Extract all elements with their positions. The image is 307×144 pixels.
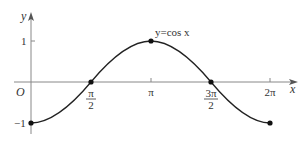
cosine-graph: y x O 1 −1 π 2 π 3π 2 2π y=cos x (0, 0, 307, 144)
x-tick-label-two-pi: 2π (264, 86, 276, 98)
point-two-pi (267, 120, 272, 125)
x-tick-label-three-half-pi-den: 2 (208, 99, 214, 111)
y-tick-label-neg1: −1 (14, 117, 26, 129)
y-tick-label-1: 1 (21, 35, 27, 47)
point-pi (148, 38, 153, 43)
point-0 (28, 120, 33, 125)
y-axis-label: y (20, 9, 27, 23)
point-half-pi (88, 79, 93, 84)
origin-label: O (16, 85, 25, 99)
x-axis-label: x (289, 82, 296, 96)
curve-label: y=cos x (155, 26, 190, 38)
x-tick-label-pi: π (148, 86, 154, 98)
x-tick-label-half-pi-num: π (88, 87, 94, 99)
x-tick-label-three-half-pi-num: 3π (205, 87, 217, 99)
point-three-half-pi (208, 79, 213, 84)
x-tick-label-half-pi-den: 2 (88, 99, 94, 111)
